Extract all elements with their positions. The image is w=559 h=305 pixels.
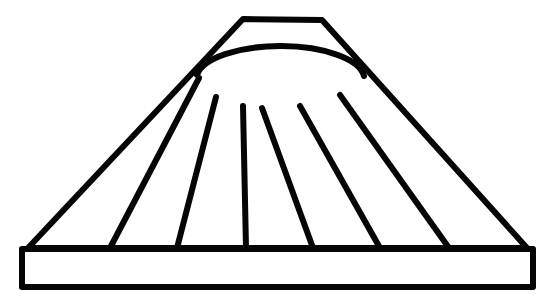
drawing-canvas (0, 0, 559, 305)
fan-shade-figure (0, 0, 559, 305)
base-bar-fill (22, 249, 533, 287)
rib-3 (243, 106, 246, 248)
